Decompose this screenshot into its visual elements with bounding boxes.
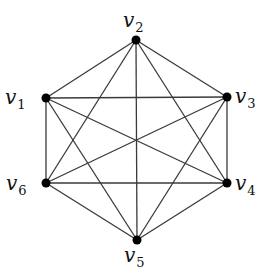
vertex-subscript: 5 [136, 255, 144, 270]
vertex-subscript: 6 [18, 183, 26, 198]
vertex-v6 [42, 179, 51, 188]
edge-v2-v3 [136, 40, 227, 97]
graph-diagram: v1v2v3v4v5v6 [0, 0, 272, 278]
edge-v1-v2 [46, 40, 136, 98]
edge-v4-v5 [137, 183, 227, 240]
vertex-v2 [132, 36, 141, 45]
vertex-label-v3: v3 [235, 84, 256, 111]
vertex-v1 [42, 94, 51, 103]
vertex-subscript: 1 [17, 97, 25, 112]
edges [46, 40, 227, 240]
vertex-label-v1: v1 [5, 85, 26, 112]
edge-v5-v6 [46, 183, 137, 240]
vertex-subscript: 2 [135, 20, 143, 35]
vertex-subscript: 3 [247, 96, 255, 111]
vertex-subscript: 4 [247, 183, 255, 198]
vertex-label-v6: v6 [6, 171, 27, 198]
vertex-v4 [223, 179, 232, 188]
vertex-label-v4: v4 [235, 171, 256, 198]
vertex-v3 [223, 93, 232, 102]
vertex-label-v2: v2 [123, 8, 144, 35]
vertex-label-v5: v5 [124, 243, 145, 270]
